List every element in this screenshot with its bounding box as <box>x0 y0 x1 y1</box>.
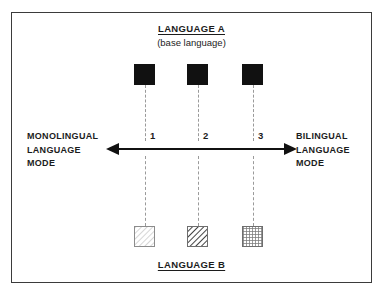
tick-label-1: 1 <box>150 130 164 141</box>
language-a-square-2 <box>187 64 208 85</box>
language-a-subtitle: (base language) <box>0 37 383 48</box>
connector-lower-1 <box>145 156 146 226</box>
language-mode-continuum-diagram: LANGUAGE A (base language) <box>0 0 383 298</box>
connector-lower-3 <box>253 156 254 226</box>
language-b-title: LANGUAGE B <box>0 259 383 270</box>
language-a-title: LANGUAGE A <box>0 23 383 34</box>
connector-lower-2 <box>198 156 199 226</box>
tick-label-2: 2 <box>203 130 217 141</box>
connector-upper-2 <box>198 85 199 141</box>
language-a-square-3 <box>242 64 263 85</box>
monolingual-language-mode-label: MONOLINGUAL LANGUAGE MODE <box>27 130 112 171</box>
tick-label-3: 3 <box>258 130 272 141</box>
connector-upper-3 <box>253 85 254 141</box>
bilingual-language-mode-label: BILINGUAL LANGUAGE MODE <box>296 130 376 171</box>
continuum-axis-line <box>118 148 284 150</box>
connector-upper-1 <box>145 85 146 141</box>
language-a-square-1 <box>134 64 155 85</box>
